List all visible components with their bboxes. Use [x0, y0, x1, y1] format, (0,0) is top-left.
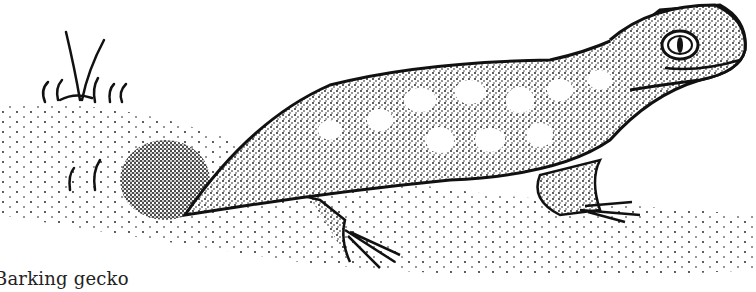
figure-caption: Barking gecko — [0, 268, 129, 289]
gecko-illustration — [0, 0, 756, 292]
grass-blade — [66, 32, 80, 100]
gecko-eye — [662, 31, 698, 59]
